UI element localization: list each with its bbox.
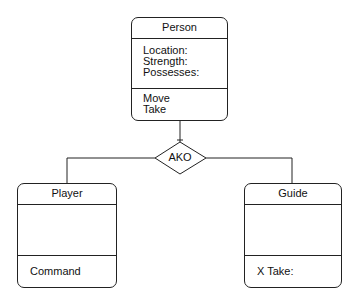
ako-to-player-line bbox=[67, 158, 155, 183]
class-name-person: Person bbox=[132, 18, 227, 39]
attributes-person: Location: Strength: Possesses: bbox=[132, 39, 227, 89]
methods-guide: X Take: bbox=[245, 256, 341, 287]
attributes-guide bbox=[245, 205, 341, 256]
ako-to-guide-line bbox=[206, 158, 292, 183]
method: Command bbox=[30, 266, 116, 277]
class-box-person[interactable]: Person Location: Strength: Possesses: Mo… bbox=[131, 17, 228, 121]
class-box-player[interactable]: Player Command bbox=[17, 183, 117, 288]
methods-person: Move Take bbox=[132, 89, 227, 120]
class-name-guide: Guide bbox=[245, 184, 341, 205]
method: X Take: bbox=[257, 266, 341, 277]
attributes-player bbox=[18, 205, 116, 256]
class-name-player: Player bbox=[18, 184, 116, 205]
ako-label: AKO bbox=[160, 151, 200, 163]
attribute: Possesses: bbox=[143, 67, 227, 78]
class-box-guide[interactable]: Guide X Take: bbox=[244, 183, 342, 288]
method: Take bbox=[143, 104, 227, 115]
methods-player: Command bbox=[18, 256, 116, 287]
